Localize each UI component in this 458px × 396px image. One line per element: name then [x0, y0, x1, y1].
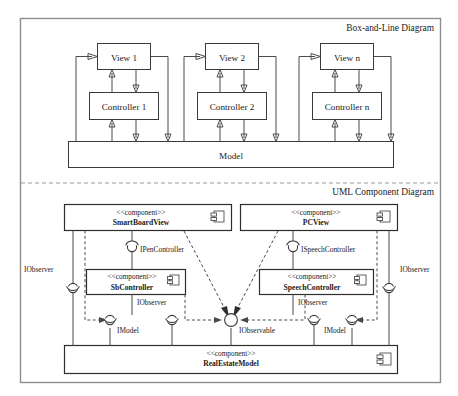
iobserver-sb-label: IObserver [137, 298, 167, 307]
pc-view-stereotype: <<component>> [292, 208, 341, 217]
imodel-left-label: IModel [117, 326, 139, 335]
iobserver-right-label: IObserver [400, 265, 430, 274]
dep-speechcontroller-iobservable [246, 295, 305, 321]
smartboard-view-stereotype: <<component>> [117, 208, 166, 217]
view-2-label: View 2 [219, 53, 246, 63]
imodel-right-label: IModel [324, 326, 346, 335]
component-icon [377, 211, 390, 222]
real-estate-model-name: RealEstateModel [203, 359, 259, 368]
iobserver-speech-label: IObserver [298, 298, 328, 307]
controller-1-label: Controller 1 [102, 102, 147, 112]
box-and-line-label: Box-and-Line Diagram [346, 23, 434, 33]
pc-view-name: PCView [303, 218, 330, 227]
mvc-triad-1: View 1 Controller 1 [76, 44, 171, 142]
figure-canvas: Box-and-Line Diagram UML Component Diagr… [0, 0, 458, 396]
speech-controller-name: SpeechController [284, 283, 341, 292]
mvc-triad-2: View 2 Controller 2 [184, 44, 279, 142]
iobserver-left-label: IObserver [24, 265, 54, 274]
real-estate-model-stereotype: <<component>> [207, 349, 256, 358]
sb-controller-name: SbController [111, 283, 154, 292]
required-interface-socket-icon [287, 241, 300, 245]
iobservable-ball-icon [225, 314, 238, 327]
ipencontroller-label: IPenController [140, 245, 184, 254]
sb-controller-stereotype: <<component>> [108, 272, 157, 281]
controller-2-label: Controller 2 [210, 102, 255, 112]
component-icon [211, 211, 224, 222]
figure-frame [21, 19, 441, 383]
required-interface-socket-icon [126, 241, 139, 245]
controller-n-label: Controller n [325, 102, 370, 112]
iobservable-label: IObservable [239, 326, 276, 335]
view-n-label: View n [334, 53, 361, 63]
smartboard-view-name: SmartBoardView [113, 218, 170, 227]
ispeechcontroller-label: ISpeechController [301, 245, 356, 254]
speech-controller-stereotype: <<component>> [288, 272, 337, 281]
mvc-triad-n: View n Controller n [299, 44, 394, 142]
dep-smartboardview-iobservable [184, 231, 226, 311]
model-label: Model [219, 151, 243, 161]
uml-component-label: UML Component Diagram [332, 187, 434, 197]
view-1-label: View 1 [111, 53, 138, 63]
dep-sbcontroller-iobservable [185, 295, 216, 321]
